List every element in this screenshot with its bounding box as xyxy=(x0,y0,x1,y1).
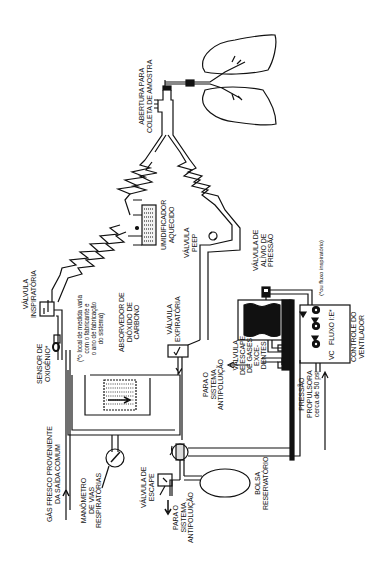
label-reservoir-bag: BOLSA RESERVATÓRIO xyxy=(254,457,269,510)
expiratory-valve-icon xyxy=(168,340,200,440)
oxygen-sensor-icon xyxy=(53,335,60,351)
label-pressure-relief-valve: VÁLVULA DE ALÍVIO DE PRESSÃO xyxy=(252,230,275,271)
peep-valve-icon xyxy=(209,232,217,240)
label-oxygen-sensor-note: (*o local de medida varia com o fabrican… xyxy=(76,295,104,362)
manometer-icon xyxy=(102,435,124,488)
label-peep-valve: VÁLVULA PEEP xyxy=(183,228,198,258)
label-inspiratory-valve: VÁLVULA INSPIRATÓRIA xyxy=(22,270,37,318)
label-to-scavenging-1: PARA O SISTEMA ANTIPOLUIÇÃO xyxy=(202,359,225,410)
label-excess-gas-valve: VÁLVULA DE ESCAPE DE GASES EXCE- DENTES xyxy=(232,336,267,375)
label-pop-off-valve: VÁLVULA DE ESCAPE xyxy=(140,467,155,508)
label-co2-absorber: ABSORVEDOR DE DIÓXIDO DE CARBONO xyxy=(118,292,141,352)
label-to-scavenging-2: PARA O SISTEMA ANTIPOLUIÇÃO xyxy=(172,492,195,543)
label-airway-manometer: MANÔMETRO DE VIAS RESPIRATÓRIAS xyxy=(80,473,103,528)
label-sample-port: ABERTURA PARA COLETA DE AMOSTRA xyxy=(138,60,153,133)
lungs-icon xyxy=(165,35,276,125)
inspiratory-limb xyxy=(52,160,157,302)
bellows-icon xyxy=(228,300,294,460)
label-inspiratory-flow-note: (*ou fluxo inspiratório) xyxy=(318,240,326,296)
label-drive-pressure: PRESSÃO PROPULSORA cerca de 50 psi xyxy=(298,370,321,418)
label-control-knobs: VC FLUXO I:E* xyxy=(328,309,336,360)
label-heated-humidifier: UMIDIFICADOR AQUECIDO xyxy=(160,200,175,250)
label-expiratory-valve: VÁLVULA EXPIRATÓRIA xyxy=(166,297,181,342)
control-knob-vc xyxy=(312,336,320,348)
co2-absorber-icon xyxy=(68,370,180,435)
label-ventilator-control: CONTROLE DO VENTILADOR xyxy=(350,312,365,362)
control-knob-flow xyxy=(312,318,320,330)
control-knob-ie xyxy=(300,307,320,318)
label-fresh-gas: GÁS FRESCO PROVENIENTE DA SAÍDA COMUM xyxy=(46,426,61,522)
label-oxygen-sensor: SENSOR DE OXIGÊNIO* xyxy=(36,344,51,384)
humidifier-icon xyxy=(128,200,156,245)
selector-valve-icon xyxy=(170,360,300,480)
